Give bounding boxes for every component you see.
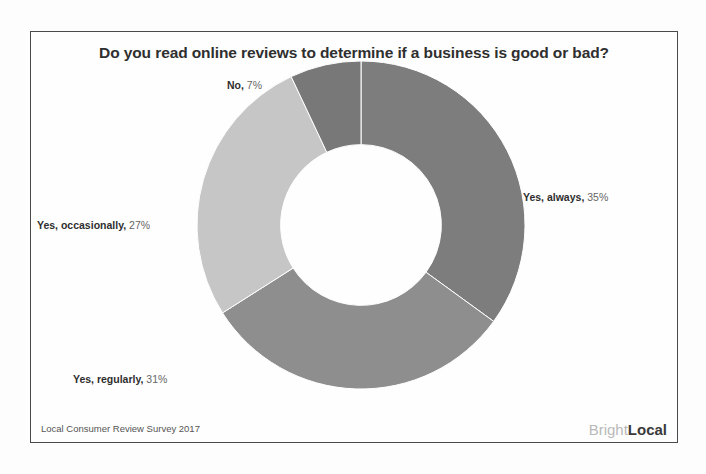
slice-label-yes-occasionally-value: 27% [129, 219, 150, 231]
brightlocal-logo: BrightLocal [589, 422, 667, 437]
slice-label-no-category: No [227, 79, 241, 91]
slice-label-no: No, 7% [227, 80, 262, 92]
donut-slice-yes-occasionally [197, 77, 327, 313]
slice-label-yes-occasionally-category: Yes, occasionally [37, 219, 123, 231]
donut-slice-yes-always [361, 61, 525, 321]
slice-label-yes-regularly-value: 31% [146, 373, 167, 385]
donut-slice-yes-regularly [223, 268, 494, 389]
slice-label-yes-always-value: 35% [587, 191, 608, 203]
survey-source-caption: Local Consumer Review Survey 2017 [41, 423, 200, 434]
chart-title: Do you read online reviews to determine … [31, 44, 677, 62]
donut-svg [191, 55, 531, 395]
donut-slice-no [291, 61, 361, 152]
slice-label-yes-always-category: Yes, always [523, 191, 581, 203]
chart-frame: Do you read online reviews to determine … [30, 31, 678, 443]
slice-label-yes-always: Yes, always, 35% [523, 192, 608, 204]
slice-label-yes-regularly: Yes, regularly, 31% [73, 374, 167, 386]
slice-label-yes-occasionally: Yes, occasionally, 27% [37, 220, 150, 232]
slice-label-no-value: 7% [247, 79, 262, 91]
slice-label-yes-regularly-category: Yes, regularly [73, 373, 141, 385]
donut-slice-group [197, 61, 525, 389]
brand-bold-text: Local [628, 421, 667, 438]
brand-light-text: Bright [589, 421, 628, 438]
page-background: Do you read online reviews to determine … [0, 0, 706, 474]
